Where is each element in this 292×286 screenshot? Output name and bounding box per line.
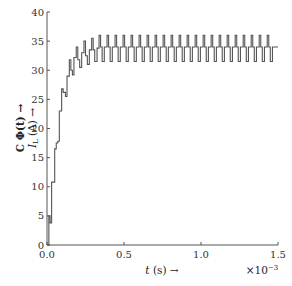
x-tick-label: 1.0: [193, 249, 209, 260]
y-tick-label: 5: [38, 210, 44, 221]
y-tick-label: 10: [31, 181, 44, 192]
y-tick-label: 15: [31, 152, 44, 163]
x-tick-label: 0.0: [39, 249, 55, 260]
chart: C Φ(t) → IL (A) → 0510152025303540 0.00.…: [0, 0, 292, 286]
y-tick-label: 40: [31, 7, 44, 18]
x-tick-label: 0.5: [116, 249, 132, 260]
x-axis-label: t (s) →: [145, 264, 178, 276]
y-tick-label: 35: [31, 36, 44, 47]
current-waveform-line: [47, 35, 278, 245]
y-tick-label: 20: [31, 123, 44, 134]
y-axis-label-line1: C Φ(t) →: [14, 104, 26, 153]
x-axis-multiplier: ×10−3: [246, 264, 279, 276]
y-tick-label: 30: [31, 65, 44, 76]
y-tick-label: 25: [31, 94, 44, 105]
x-tick-label: 1.5: [270, 249, 286, 260]
